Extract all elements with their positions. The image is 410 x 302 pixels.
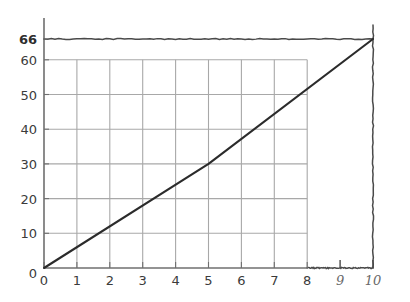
y-tick-label-0: 0 (29, 266, 37, 281)
horizontal-line-66 (44, 38, 373, 39)
chart-container: 012345678910 010203040506066 (0, 0, 410, 302)
y-tick-label-20: 20 (20, 192, 37, 207)
x-tick-label-8: 8 (303, 273, 311, 288)
y-tick-label-50: 50 (20, 88, 37, 103)
y-tick-label-40: 40 (20, 122, 37, 137)
x-tick-label-2: 2 (106, 273, 114, 288)
y-tick-label-60: 60 (20, 53, 37, 68)
x-tick-label-3: 3 (139, 273, 147, 288)
x-tick-label-0: 0 (40, 273, 48, 288)
x-tick-label-4: 4 (171, 273, 179, 288)
x-tick-label-5: 5 (204, 273, 212, 288)
x-tick-label-1: 1 (73, 273, 81, 288)
y-tick-label-30: 30 (20, 157, 37, 172)
line-chart: 012345678910 010203040506066 (0, 0, 410, 302)
x-tick-label-10: 10 (365, 273, 382, 288)
x-tick-label-9: 9 (336, 273, 344, 288)
x-tick-label-7: 7 (270, 273, 278, 288)
x-tick-label-6: 6 (237, 273, 245, 288)
y-tick-label-10: 10 (20, 226, 37, 241)
y-tick-label-66: 66 (19, 32, 37, 47)
